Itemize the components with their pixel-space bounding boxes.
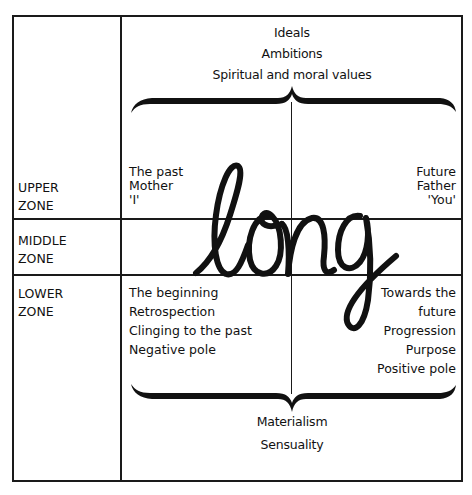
bottom-label-materialism: Materialism [122,413,462,430]
top-label-spiritual-moral-values: Spiritual and moral values [122,66,462,83]
bottom-label-sensuality: Sensuality [122,436,462,453]
lower-zone-line2: ZONE [18,303,63,321]
lower-right-progression: Progression [377,321,456,340]
lower-zone-line1: LOWER [18,285,63,303]
lower-right-towards-the: Towards the [377,283,456,302]
lower-right-purpose: Purpose [377,340,456,359]
lower-right-labels: Towards the future Progression Purpose P… [377,283,456,378]
upper-zone-line1: UPPER [18,179,59,197]
upper-left-i: 'I' [129,193,183,207]
upper-right-future: Future [416,165,456,179]
top-label-ambitions: Ambitions [122,45,462,62]
upper-left-labels: The past Mother 'I' [129,165,183,207]
middle-zone-line1: MIDDLE [18,232,67,250]
upper-left-mother: Mother [129,179,183,193]
upper-right-you: 'You' [416,193,456,207]
lower-left-negative-pole: Negative pole [129,340,252,359]
upper-right-labels: Future Father 'You' [416,165,456,207]
middle-zone-line2: ZONE [18,250,67,268]
lower-left-labels: The beginning Retrospection Clinging to … [129,283,252,359]
upper-right-father: Father [416,179,456,193]
upper-zone-label: UPPER ZONE [18,179,59,215]
upper-left-the-past: The past [129,165,183,179]
top-label-ideals: Ideals [122,24,462,41]
lower-left-the-beginning: The beginning [129,283,252,302]
lower-left-clinging-to-past: Clinging to the past [129,321,252,340]
upper-zone-line2: ZONE [18,197,59,215]
top-brace-icon [131,86,456,113]
bottom-brace-icon [131,384,456,412]
lower-right-future: future [377,302,456,321]
middle-zone-label: MIDDLE ZONE [18,232,67,268]
lower-zone-label: LOWER ZONE [18,285,63,321]
lower-left-retrospection: Retrospection [129,302,252,321]
lower-right-positive-pole: Positive pole [377,359,456,378]
